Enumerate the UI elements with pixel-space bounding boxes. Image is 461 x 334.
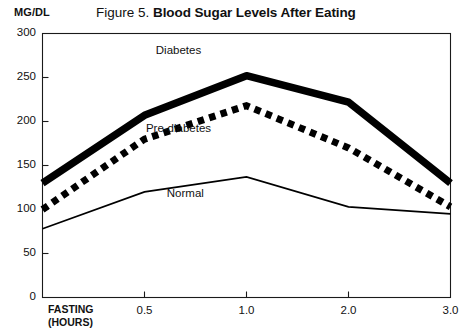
y-tick-label: 200 [6,114,36,126]
series-annotation-label: Pre-diabetes [146,122,211,134]
x-axis-title-line1: FASTING [48,303,94,316]
series-annotation-label: Normal [167,187,204,199]
y-tick-label: 150 [6,158,36,170]
y-tick-label: 0 [6,290,36,302]
x-axis-title-line2: (HOURS) [48,316,94,329]
chart-plot [0,0,461,334]
y-tick-label: 50 [6,246,36,258]
x-tick-label: 3.0 [421,304,461,316]
x-tick-label: 2.0 [319,304,379,316]
figure-container: MG/DL Figure 5. Blood Sugar Levels After… [0,0,461,334]
y-tick-label: 300 [6,26,36,38]
x-tick-label: 1.0 [217,304,277,316]
series-line [43,177,451,229]
x-tick-label: 0.5 [115,304,175,316]
series-lines [43,76,451,229]
y-tick-label: 100 [6,202,36,214]
x-axis-title: FASTING (HOURS) [48,303,94,328]
y-tick-label: 250 [6,70,36,82]
series-annotation-label: Diabetes [156,44,201,56]
series-line [43,106,451,210]
